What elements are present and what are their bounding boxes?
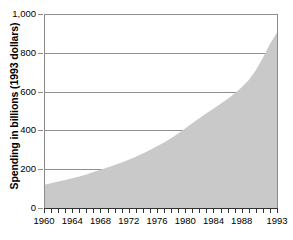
plot-right-border (277, 14, 278, 209)
x-tick-mark (100, 209, 101, 213)
x-tick-mark (277, 209, 278, 213)
plot-left-border (44, 14, 45, 209)
y-tick-mark (38, 14, 43, 15)
x-tick-mark (129, 209, 130, 213)
x-tick-label: 1968 (90, 215, 111, 226)
x-tick-mark (58, 209, 59, 213)
x-tick-mark (51, 209, 52, 213)
x-tick-mark (206, 209, 207, 213)
x-tick-label: 1972 (118, 215, 139, 226)
x-tick-label: 1993 (266, 215, 287, 226)
x-tick-mark (185, 209, 186, 213)
x-tick-mark (79, 209, 80, 213)
x-tick-mark (150, 209, 151, 213)
y-tick-mark (38, 208, 43, 209)
x-tick-mark (157, 209, 158, 213)
x-tick-mark (72, 209, 73, 213)
x-tick-mark (199, 209, 200, 213)
x-tick-mark (115, 209, 116, 213)
x-tick-mark (263, 209, 264, 213)
chart-figure: Spending in billions (1993 dollars) 0200… (0, 0, 293, 240)
y-tick-mark (38, 169, 43, 170)
x-tick-mark (44, 209, 45, 213)
y-tick-label: 0 (2, 202, 36, 213)
x-tick-mark (122, 209, 123, 213)
x-tick-label: 1980 (175, 215, 196, 226)
x-tick-mark (143, 209, 144, 213)
y-tick-mark (38, 92, 43, 93)
area-series (44, 14, 277, 209)
x-tick-mark (93, 209, 94, 213)
y-axis-title: Spending in billions (1993 dollars) (8, 6, 20, 206)
x-tick-mark (235, 209, 236, 213)
x-tick-label: 1964 (62, 215, 83, 226)
y-tick-label: 1,000 (2, 8, 36, 19)
figure-caption (4, 231, 289, 240)
x-tick-mark (164, 209, 165, 213)
x-tick-mark (136, 209, 137, 213)
y-tick-mark (38, 53, 43, 54)
y-tick-label: 400 (2, 124, 36, 135)
x-tick-mark (213, 209, 214, 213)
x-tick-mark (249, 209, 250, 213)
x-tick-mark (178, 209, 179, 213)
x-tick-label: 1976 (146, 215, 167, 226)
x-tick-mark (228, 209, 229, 213)
y-tick-mark (38, 130, 43, 131)
x-tick-mark (242, 209, 243, 213)
x-tick-label: 1988 (231, 215, 252, 226)
x-tick-mark (221, 209, 222, 213)
x-tick-mark (192, 209, 193, 213)
x-tick-label: 1984 (203, 215, 224, 226)
x-tick-mark (256, 209, 257, 213)
x-tick-mark (86, 209, 87, 213)
x-tick-mark (270, 209, 271, 213)
x-tick-mark (108, 209, 109, 213)
x-tick-mark (171, 209, 172, 213)
x-tick-label: 1960 (33, 215, 54, 226)
y-tick-label: 600 (2, 86, 36, 97)
y-tick-label: 200 (2, 163, 36, 174)
y-tick-label: 800 (2, 47, 36, 58)
x-tick-mark (65, 209, 66, 213)
